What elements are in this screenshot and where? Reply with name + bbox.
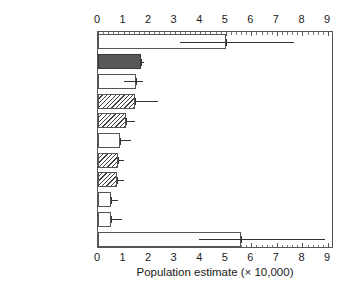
axis-tick-minor — [256, 245, 257, 248]
axis-tick-major — [302, 243, 303, 247]
x-tick-label-top: 0 — [87, 13, 107, 26]
axis-tick-major — [302, 32, 303, 36]
x-tick-label-bottom: 3 — [164, 251, 184, 264]
axis-tick-minor — [287, 32, 288, 35]
x-tick-label-bottom: 4 — [189, 251, 209, 264]
axis-tick-minor — [323, 245, 324, 248]
axis-tick-minor — [297, 245, 298, 248]
axis-tick-minor — [323, 32, 324, 35]
error-bar-line — [111, 219, 123, 220]
error-bar-cap — [135, 98, 136, 105]
axis-tick-minor — [241, 32, 242, 35]
axis-tick-minor — [246, 32, 247, 35]
bar — [98, 153, 118, 168]
axis-tick-minor — [272, 32, 273, 35]
x-tick-label-bottom: 6 — [240, 251, 260, 264]
plot-area — [97, 31, 333, 248]
axis-tick-minor — [267, 245, 268, 248]
error-bar-cap — [120, 138, 121, 145]
error-bar-cap — [111, 216, 112, 223]
axis-tick-minor — [262, 32, 263, 35]
axis-tick-major — [251, 243, 252, 247]
x-tick-label-top: 3 — [164, 13, 184, 26]
population-estimate-bar-chart: 0123456789 GERMANYUKRAINEHUNGARYPOLANDBE… — [0, 0, 345, 287]
axis-tick-minor — [272, 245, 273, 248]
x-tick-label-top: 4 — [189, 13, 209, 26]
error-bar-cap — [111, 197, 112, 204]
axis-tick-major — [226, 32, 227, 36]
error-bar-line — [120, 140, 131, 141]
error-bar-cap — [141, 59, 142, 66]
error-bar-line — [111, 200, 118, 201]
x-tick-label-top: 6 — [240, 13, 260, 26]
axis-tick-minor — [256, 32, 257, 35]
bar — [98, 54, 141, 69]
x-tick-label-bottom: 5 — [215, 251, 235, 264]
axis-tick-major — [251, 32, 252, 36]
error-bar-line — [124, 81, 143, 82]
x-tick-label-top: 1 — [113, 13, 133, 26]
bar — [98, 94, 135, 109]
x-tick-label-bottom: 2 — [138, 251, 158, 264]
x-tick-label-top: 9 — [317, 13, 337, 26]
axis-tick-minor — [318, 245, 319, 248]
x-tick-label-bottom: 1 — [113, 251, 133, 264]
axis-tick-minor — [313, 245, 314, 248]
error-bar-line — [180, 42, 294, 43]
axis-tick-minor — [241, 245, 242, 248]
axis-tick-minor — [246, 245, 247, 248]
bar — [98, 172, 117, 187]
axis-tick-minor — [282, 32, 283, 35]
error-bar-line — [126, 121, 135, 122]
axis-tick-minor — [292, 245, 293, 248]
error-bar-line — [199, 239, 326, 240]
axis-tick-minor — [308, 245, 309, 248]
x-tick-label-bottom: 0 — [87, 251, 107, 264]
axis-tick-minor — [292, 32, 293, 35]
axis-tick-major — [277, 32, 278, 36]
axis-tick-major — [277, 243, 278, 247]
bar — [98, 212, 111, 227]
bar — [98, 113, 126, 128]
x-tick-label-top: 7 — [266, 13, 286, 26]
error-bar-line — [135, 101, 158, 102]
x-tick-label-bottom: 7 — [266, 251, 286, 264]
axis-tick-major — [328, 243, 329, 247]
bar — [98, 133, 120, 148]
x-axis-title: Population estimate (× 10,000) — [97, 266, 333, 278]
x-tick-label-top: 5 — [215, 13, 235, 26]
axis-tick-minor — [262, 245, 263, 248]
axis-tick-minor — [308, 32, 309, 35]
error-bar-cap — [226, 39, 227, 46]
axis-tick-minor — [318, 32, 319, 35]
error-bar-cap — [241, 236, 242, 243]
axis-tick-minor — [236, 32, 237, 35]
error-bar-cap — [136, 78, 137, 85]
x-tick-label-bottom: 8 — [291, 251, 311, 264]
axis-tick-minor — [282, 245, 283, 248]
axis-tick-minor — [297, 32, 298, 35]
error-bar-cap — [118, 157, 119, 164]
axis-tick-minor — [231, 32, 232, 35]
x-tick-label-top: 8 — [291, 13, 311, 26]
axis-tick-minor — [287, 245, 288, 248]
axis-tick-major — [328, 32, 329, 36]
error-bar-cap — [117, 177, 118, 184]
axis-tick-minor — [313, 32, 314, 35]
x-tick-label-top: 2 — [138, 13, 158, 26]
error-bar-cap — [126, 118, 127, 125]
bar — [98, 192, 111, 207]
x-tick-label-bottom: 9 — [317, 251, 337, 264]
axis-tick-minor — [267, 32, 268, 35]
